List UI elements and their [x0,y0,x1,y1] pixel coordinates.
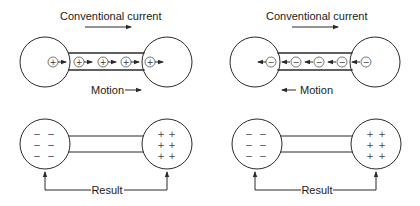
result-arrow-left-icon [45,172,91,190]
conventional-current-label: Conventional current [60,10,162,22]
svg-text:−: − [47,151,55,161]
result-arrow-right-icon [333,172,376,190]
svg-text:−: − [245,140,253,150]
svg-text:−: − [259,129,267,139]
svg-text:−: − [245,151,253,161]
svg-text:−: − [47,140,55,150]
result-arrow-right-icon [124,172,167,190]
result-right: − − − − − − + + + + + + Result [232,119,401,196]
svg-text:+: + [50,58,57,67]
svg-text:−: − [363,58,370,67]
panel-negative-carriers: Conventional current − − − − − Motion [230,10,400,96]
result-label: Result [301,184,332,196]
svg-text:+: + [378,129,386,139]
svg-text:+: + [366,140,374,150]
svg-text:−: − [245,129,253,139]
svg-text:+: + [378,140,386,150]
svg-text:−: − [259,140,267,150]
conductor-tube [68,136,145,152]
panel-positive-carriers: Conventional current + + + + + [20,10,192,96]
charge-flow-diagram: Conventional current + + + + + [0,0,420,206]
positive-sphere [351,119,401,169]
svg-text:−: − [33,129,41,139]
svg-text:−: − [47,129,55,139]
positive-sphere [142,119,192,169]
negative-sphere [20,119,70,169]
svg-text:+: + [366,151,374,161]
svg-text:−: − [316,58,323,67]
svg-text:−: − [33,151,41,161]
svg-text:+: + [157,129,165,139]
svg-text:+: + [147,58,154,67]
result-arrow-left-icon [255,172,301,190]
svg-text:+: + [168,151,176,161]
svg-text:+: + [168,140,176,150]
svg-text:+: + [168,129,176,139]
svg-text:−: − [293,58,300,67]
conventional-current-label: Conventional current [266,10,368,22]
svg-text:−: − [268,58,275,67]
svg-text:−: − [33,140,41,150]
svg-text:+: + [123,58,130,67]
svg-text:+: + [366,129,374,139]
svg-text:+: + [100,58,107,67]
motion-label: Motion [91,84,124,96]
motion-label: Motion [300,84,333,96]
svg-text:+: + [157,151,165,161]
svg-text:+: + [157,140,165,150]
svg-text:−: − [259,151,267,161]
svg-text:−: − [339,58,346,67]
svg-text:+: + [76,58,83,67]
svg-text:+: + [378,151,386,161]
conductor-tube [279,136,354,152]
result-left: − − − − − − + + + + + + Result [20,119,192,196]
result-label: Result [91,184,122,196]
negative-sphere [232,119,282,169]
